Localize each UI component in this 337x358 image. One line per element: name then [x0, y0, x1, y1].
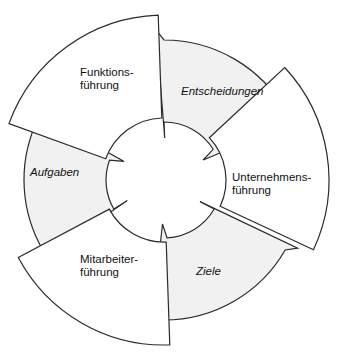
label-line: Unternehmens-	[232, 171, 311, 183]
label-line: Ziele	[195, 265, 221, 277]
label-line: führung	[232, 184, 271, 196]
label-entscheidungen: Entscheidungen	[181, 85, 263, 97]
label-aufgaben: Aufgaben	[29, 166, 79, 178]
label-line: Entscheidungen	[181, 85, 263, 97]
label-line: führung	[80, 79, 119, 91]
label-line: Funktions-	[80, 66, 134, 78]
label-line: Aufgaben	[29, 166, 79, 178]
label-line: Mitarbeiter-	[80, 253, 138, 265]
label-ziele: Ziele	[195, 265, 221, 277]
management-cycle-diagram: Funktions- führung Entscheidungen Untern…	[0, 0, 337, 358]
label-line: führung	[80, 266, 119, 278]
